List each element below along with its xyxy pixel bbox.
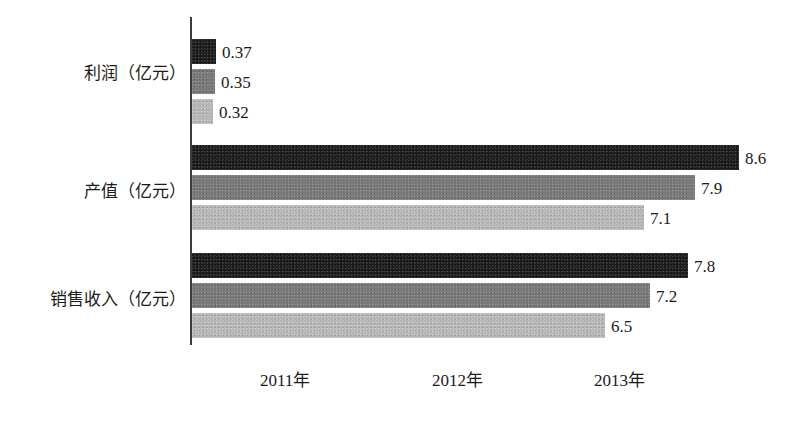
value-label-output-value-2013: 8.6 bbox=[745, 149, 766, 166]
value-label-sales-revenue-2012: 7.2 bbox=[656, 287, 677, 304]
chart-legend: 2011年 2012年 2013年 bbox=[0, 368, 806, 394]
legend-label-2013: 2013年 bbox=[594, 372, 645, 389]
category-label-sales-revenue: 销售收入（亿元） bbox=[0, 290, 186, 310]
bar-group-sales-revenue: 销售收入（亿元） 7.8 7.2 6.5 bbox=[0, 253, 806, 348]
legend-item-2013[interactable]: 2013年 bbox=[579, 368, 645, 392]
bar-output-value-2011[interactable] bbox=[192, 205, 644, 230]
legend-swatch-2012-icon bbox=[417, 375, 428, 386]
legend-swatch-2011-icon bbox=[245, 375, 256, 386]
category-label-output-value: 产值（亿元） bbox=[0, 182, 186, 202]
value-label-profit-2011: 0.32 bbox=[219, 103, 249, 120]
bar-group-output-value: 产值（亿元） 8.6 7.9 7.1 bbox=[0, 145, 806, 240]
value-label-sales-revenue-2011: 6.5 bbox=[611, 317, 632, 334]
value-label-sales-revenue-2013: 7.8 bbox=[694, 257, 715, 274]
legend-swatch-2013-icon bbox=[579, 375, 590, 386]
bar-profit-2011[interactable] bbox=[192, 99, 213, 124]
bar-output-value-2012[interactable] bbox=[192, 175, 695, 200]
value-label-output-value-2011: 7.1 bbox=[650, 209, 671, 226]
legend-item-2012[interactable]: 2012年 bbox=[417, 368, 483, 392]
legend-label-2011: 2011年 bbox=[260, 372, 310, 389]
category-label-profit: 利润（亿元） bbox=[0, 64, 186, 84]
plot-area: 利润（亿元） 0.37 0.35 0.32 产值（亿元） 8.6 bbox=[0, 0, 806, 360]
bar-group-profit: 利润（亿元） 0.37 0.35 0.32 bbox=[0, 22, 806, 126]
value-label-profit-2013: 0.37 bbox=[222, 43, 252, 60]
bar-profit-2013[interactable] bbox=[192, 39, 216, 64]
value-label-output-value-2012: 7.9 bbox=[701, 179, 722, 196]
bar-chart: 利润（亿元） 0.37 0.35 0.32 产值（亿元） 8.6 bbox=[0, 0, 806, 425]
bar-output-value-2013[interactable] bbox=[192, 145, 739, 170]
legend-item-2011[interactable]: 2011年 bbox=[245, 368, 310, 392]
bar-sales-revenue-2013[interactable] bbox=[192, 253, 688, 278]
bar-sales-revenue-2012[interactable] bbox=[192, 283, 650, 308]
legend-label-2012: 2012年 bbox=[432, 372, 483, 389]
bar-sales-revenue-2011[interactable] bbox=[192, 313, 605, 338]
value-label-profit-2012: 0.35 bbox=[221, 73, 251, 90]
bar-profit-2012[interactable] bbox=[192, 69, 215, 94]
